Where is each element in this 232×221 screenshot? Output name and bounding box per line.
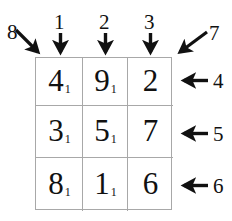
grid-cell-r1c2: 91 xyxy=(83,58,128,106)
cell-value: 6 xyxy=(143,168,159,199)
diagram-canvas: 41 91 2 31 51 7 81 11 6 1 2 3 4 5 6 7 8 xyxy=(0,0,232,221)
corner-label-7: 7 xyxy=(209,23,220,44)
grid-cell-r3c2: 11 xyxy=(83,158,128,211)
cell-value: 3 xyxy=(48,115,64,146)
arrow-diagonal-down-left-icon-7 xyxy=(180,32,207,52)
right-label-6: 6 xyxy=(213,176,224,197)
arrow-diagonal-down-right-icon-8 xyxy=(16,30,38,52)
grid-cell-r2c1: 31 xyxy=(36,106,83,158)
cell-subscript: 1 xyxy=(111,133,117,145)
corner-label-8: 8 xyxy=(7,22,18,43)
grid-cell-r1c1: 41 xyxy=(36,58,83,106)
top-label-3: 3 xyxy=(144,12,155,33)
grid-cell-r2c2: 51 xyxy=(83,106,128,158)
number-grid: 41 91 2 31 51 7 81 11 6 xyxy=(35,57,172,210)
cell-subscript: 1 xyxy=(65,83,71,95)
grid-cell-r2c3: 7 xyxy=(128,106,173,158)
grid-cell-r1c3: 2 xyxy=(128,58,173,106)
grid-cell-r3c3: 6 xyxy=(128,158,173,211)
cell-subscript: 1 xyxy=(111,186,117,198)
cell-value: 7 xyxy=(143,115,159,146)
grid-cell-r3c1: 81 xyxy=(36,158,83,211)
cell-value: 8 xyxy=(48,168,64,199)
right-label-5: 5 xyxy=(213,124,224,145)
cell-subscript: 1 xyxy=(65,186,71,198)
right-label-4: 4 xyxy=(213,71,224,92)
cell-value: 1 xyxy=(94,168,110,199)
cell-subscript: 1 xyxy=(65,133,71,145)
top-label-2: 2 xyxy=(99,12,110,33)
cell-subscript: 1 xyxy=(111,83,117,95)
cell-value: 9 xyxy=(94,65,110,96)
cell-value: 5 xyxy=(94,115,110,146)
cell-value: 2 xyxy=(143,65,159,96)
cell-value: 4 xyxy=(48,65,64,96)
top-label-1: 1 xyxy=(54,12,65,33)
